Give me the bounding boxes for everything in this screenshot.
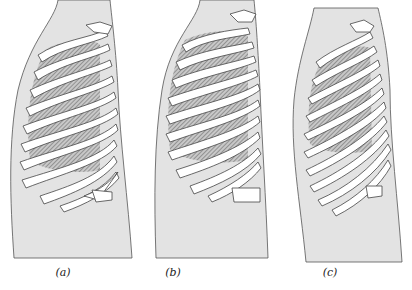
ribcage-illustration-a: [0, 0, 140, 290]
ribcage-illustration-b: [140, 0, 280, 290]
panel-label-a: (a): [43, 266, 83, 279]
panel-a: (a): [0, 0, 140, 290]
panel-label-b: (b): [153, 266, 193, 279]
ribcage-illustration-c: [270, 0, 412, 290]
panel-label-c: (c): [310, 266, 350, 279]
panel-b: (b): [140, 0, 280, 290]
panel-c: (c): [270, 0, 412, 290]
